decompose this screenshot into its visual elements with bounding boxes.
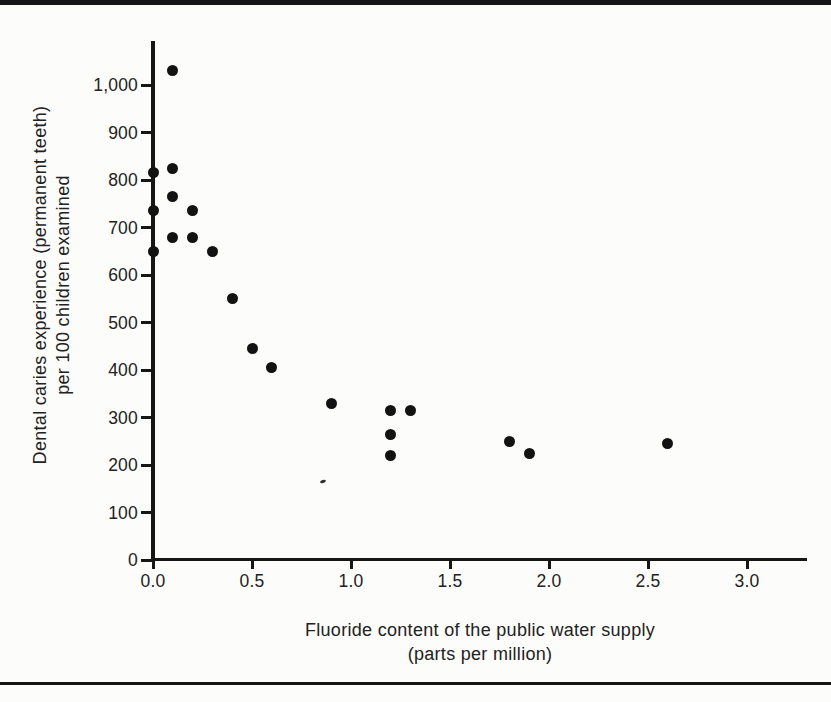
data-point (148, 205, 159, 216)
x-axis-title-line2: (parts per million) (153, 642, 807, 666)
data-point (167, 163, 178, 174)
y-tick-mark (141, 84, 153, 87)
x-tick-mark (746, 558, 749, 569)
data-point (167, 232, 178, 243)
data-point (504, 436, 515, 447)
x-tick-mark (251, 558, 254, 569)
x-tick-label: 2.0 (519, 570, 579, 592)
x-tick-label: 3.0 (717, 570, 777, 592)
x-tick-label: 0.5 (222, 570, 282, 592)
y-tick-mark (141, 274, 153, 277)
x-tick-mark (152, 558, 155, 569)
x-tick-mark (350, 558, 353, 569)
x-tick-label: 0.0 (123, 570, 183, 592)
y-tick-mark (141, 464, 153, 467)
fluoride-caries-scatter-chart: 01002003004005006007008009001,000 0.00.5… (0, 0, 831, 702)
data-point (207, 246, 218, 257)
y-axis-title-line1: Dental caries experience (permanent teet… (29, 55, 52, 515)
data-point (247, 343, 258, 354)
x-axis-title-line1: Fluoride content of the public water sup… (153, 618, 807, 642)
x-tick-label: 1.0 (321, 570, 381, 592)
data-point (385, 405, 396, 416)
data-point (326, 398, 337, 409)
x-axis-title: Fluoride content of the public water sup… (153, 618, 807, 666)
y-axis-title: Dental caries experience (permanent teet… (29, 55, 75, 515)
y-tick-mark (141, 321, 153, 324)
data-point (385, 450, 396, 461)
y-tick-mark (141, 131, 153, 134)
page-bottom-rule (0, 682, 831, 685)
data-point (187, 232, 198, 243)
y-tick-mark (141, 369, 153, 372)
y-axis-title-line2: per 100 children examined (52, 55, 75, 515)
y-tick-mark (141, 226, 153, 229)
data-point (266, 362, 277, 373)
x-tick-mark (548, 558, 551, 569)
x-axis-line (151, 558, 807, 561)
print-speck-artifact (320, 479, 327, 484)
data-point (662, 438, 673, 449)
data-point (227, 293, 238, 304)
scanned-book-page: 01002003004005006007008009001,000 0.00.5… (0, 0, 831, 702)
y-tick-mark (141, 416, 153, 419)
data-point (167, 65, 178, 76)
data-point (148, 246, 159, 257)
data-point (405, 405, 416, 416)
data-point (524, 448, 535, 459)
data-point (187, 205, 198, 216)
y-tick-label: 0 (58, 549, 138, 571)
data-point (385, 429, 396, 440)
x-tick-mark (647, 558, 650, 569)
data-point (148, 167, 159, 178)
y-tick-mark (141, 511, 153, 514)
x-tick-mark (449, 558, 452, 569)
data-point (167, 191, 178, 202)
x-tick-label: 2.5 (618, 570, 678, 592)
x-tick-label: 1.5 (420, 570, 480, 592)
y-tick-mark (141, 179, 153, 182)
y-axis-line (151, 41, 155, 561)
